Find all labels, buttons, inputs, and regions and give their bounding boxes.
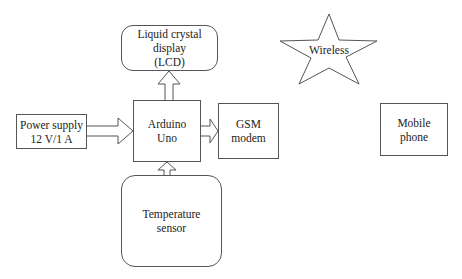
mobile-label-line2: phone	[397, 130, 430, 144]
power-supply-node: Power supply 12 V/1 A	[16, 114, 87, 149]
gsm-label-line2: modem	[231, 131, 266, 145]
gsm-label-line1: GSM	[231, 117, 266, 131]
lcd-label-line3: (LCD)	[137, 55, 201, 69]
temp-label-line2: sensor	[143, 221, 201, 235]
arduino-label-line1: Arduino	[148, 117, 186, 131]
lcd-label-line2: display	[137, 41, 201, 55]
temperature-sensor-node: Temperature sensor	[121, 175, 222, 267]
arrow-arduino-to-gsm	[201, 119, 218, 143]
arrow-temp-to-arduino	[158, 162, 176, 175]
lcd-node: Liquid crystal display (LCD)	[121, 25, 218, 71]
mobile-phone-node: Mobile phone	[380, 103, 448, 156]
mobile-label-line1: Mobile	[397, 116, 430, 130]
temp-label-line1: Temperature	[143, 207, 201, 221]
wireless-label: Wireless	[299, 44, 359, 56]
lcd-label-line1: Liquid crystal	[137, 27, 201, 41]
power-label-line2: 12 V/1 A	[20, 132, 83, 146]
arduino-node: Arduino Uno	[133, 100, 201, 162]
arrow-power-to-arduino	[86, 118, 133, 144]
gsm-modem-node: GSM modem	[218, 103, 279, 159]
arrow-arduino-to-lcd	[158, 71, 180, 100]
power-label-line1: Power supply	[20, 118, 83, 132]
arduino-label-line2: Uno	[148, 131, 186, 145]
